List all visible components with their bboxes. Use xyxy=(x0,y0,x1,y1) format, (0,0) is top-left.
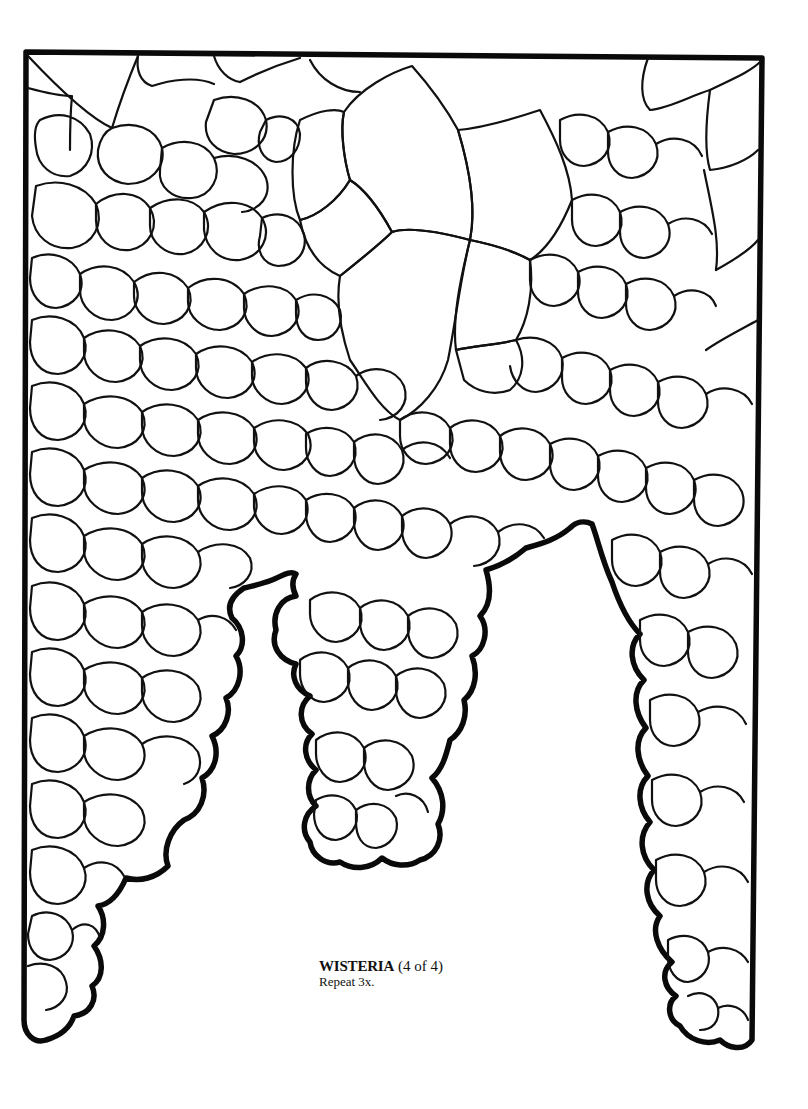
caption-note: Repeat 3x. xyxy=(319,974,443,989)
center-cells xyxy=(300,338,563,848)
pebble-cells xyxy=(28,97,358,1010)
pattern-outline xyxy=(24,52,762,1048)
wisteria-pattern-drawing xyxy=(0,0,808,1109)
pattern-caption: WISTERIA (4 of 4) Repeat 3x. xyxy=(319,958,443,989)
caption-title: WISTERIA xyxy=(319,958,394,974)
caption-part: (4 of 4) xyxy=(398,958,443,974)
right-cells xyxy=(530,115,752,1030)
